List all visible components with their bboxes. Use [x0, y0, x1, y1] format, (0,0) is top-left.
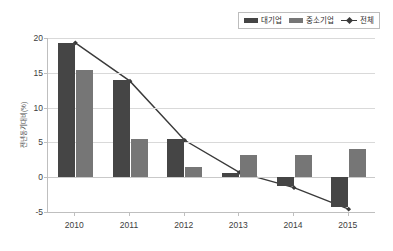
x-tick-label: 2013 — [229, 220, 248, 230]
x-tick-mark — [74, 212, 75, 216]
x-tick-mark — [238, 212, 239, 216]
bar-large-enterprise-2013 — [222, 173, 239, 177]
bar-large-enterprise-2015 — [331, 177, 348, 207]
gridline — [48, 108, 375, 109]
y-tick-label: 15 — [34, 68, 43, 78]
bar-sme-2013 — [240, 155, 257, 177]
y-tick-label: -5 — [35, 207, 43, 217]
x-tick-label: 2015 — [338, 220, 357, 230]
plot-area — [47, 38, 375, 212]
gridline — [48, 177, 375, 178]
line-series-total — [48, 38, 376, 212]
y-tick-label: 0 — [38, 172, 43, 182]
legend-line-diamond-icon — [341, 17, 357, 24]
legend-swatch-light-icon — [289, 18, 303, 23]
legend-item-sme[interactable]: 중소기업 — [289, 17, 334, 25]
bar-large-enterprise-2014 — [277, 177, 294, 186]
legend-item-large-enterprise[interactable]: 대기업 — [244, 17, 282, 25]
gridline — [48, 38, 375, 39]
gridline — [48, 142, 375, 143]
x-tick-mark — [348, 212, 349, 216]
y-tick-mark — [44, 108, 48, 109]
y-tick-label: 20 — [34, 33, 43, 43]
chart-container: 대기업 중소기업 전체 전년동기대비(%) 20151050-5 2010201… — [0, 0, 393, 251]
y-tick-mark — [44, 38, 48, 39]
x-tick-label: 2012 — [174, 220, 193, 230]
x-tick-label: 2010 — [65, 220, 84, 230]
legend-label-large-enterprise: 대기업 — [261, 17, 282, 25]
y-tick-label: 10 — [34, 103, 43, 113]
x-tick-label: 2014 — [284, 220, 303, 230]
y-tick-mark — [44, 177, 48, 178]
bar-sme-2010 — [76, 70, 93, 177]
total-line-marker-2015 — [346, 207, 351, 212]
y-tick-mark — [44, 142, 48, 143]
x-tick-label: 2011 — [120, 220, 138, 230]
bar-sme-2015 — [349, 149, 366, 177]
y-axis-ticks: 20151050-5 — [0, 38, 43, 212]
x-tick-mark — [293, 212, 294, 216]
legend-label-sme: 중소기업 — [306, 17, 334, 25]
gridline — [48, 73, 375, 74]
x-tick-mark — [184, 212, 185, 216]
y-tick-label: 5 — [38, 137, 43, 147]
bar-large-enterprise-2012 — [167, 139, 184, 177]
legend-label-total: 전체 — [360, 17, 374, 25]
x-tick-mark — [129, 212, 130, 216]
bar-large-enterprise-2011 — [113, 80, 130, 177]
x-axis: 201020112012201320142015 — [47, 212, 375, 238]
bar-sme-2014 — [295, 155, 312, 177]
bar-sme-2011 — [131, 139, 148, 177]
legend-item-total[interactable]: 전체 — [341, 17, 374, 25]
chart-legend: 대기업 중소기업 전체 — [238, 12, 380, 29]
y-tick-mark — [44, 73, 48, 74]
bar-sme-2012 — [185, 167, 202, 177]
bar-large-enterprise-2010 — [58, 43, 75, 177]
legend-swatch-dark-icon — [244, 18, 258, 23]
